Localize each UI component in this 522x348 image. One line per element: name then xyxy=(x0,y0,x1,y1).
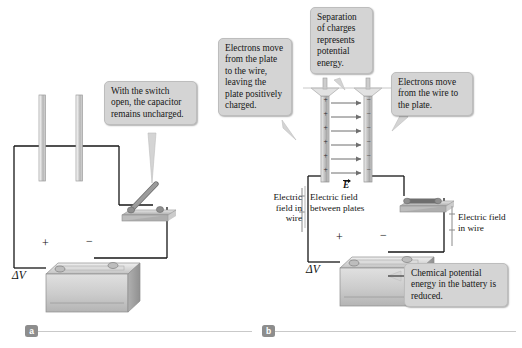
field-arrows-between-plates xyxy=(331,103,361,173)
switch-open-callout: With the switch open, the capacitor rema… xyxy=(104,81,197,125)
chemical-energy-callout: Chemical potential energy in the battery… xyxy=(404,263,508,307)
panel-label-b: b xyxy=(262,325,275,337)
delta-v-label-b: ΔV xyxy=(306,263,320,275)
panel-a-rule xyxy=(30,331,252,332)
panel-a-switch-open xyxy=(122,184,176,221)
panel-b-switch-closed xyxy=(400,198,454,212)
battery-a-plus-sign: + xyxy=(42,236,49,251)
plate-negative-charge: − xyxy=(365,165,372,174)
plate-positive-charge: + xyxy=(322,95,329,104)
electric-field-in-wire-left-label: Electric field in wire xyxy=(262,192,302,224)
tail-switch-open xyxy=(148,133,156,183)
battery-a-minus-sign: − xyxy=(86,234,93,249)
plate-negative-charge: − xyxy=(365,95,372,104)
panel-a-capacitor xyxy=(39,95,83,181)
electric-field-between-plates-label: Electric field between plates xyxy=(310,192,388,213)
figure-capacitor-charging: With the switch open, the capacitor rema… xyxy=(0,0,522,348)
wire-field-ticks-right xyxy=(449,206,455,246)
panel-b-capacitor-charged xyxy=(303,78,391,182)
battery-b-minus-sign: − xyxy=(380,228,387,243)
plate-positive-charge: + xyxy=(322,109,329,118)
plate-positive-charge: + xyxy=(322,123,329,132)
panel-a-circuit xyxy=(14,95,176,312)
separation-of-charges-callout: Separation of charges represents potenti… xyxy=(310,7,373,74)
panel-a-battery xyxy=(46,263,140,313)
plate-negative-charge: − xyxy=(365,109,372,118)
e-field-vector-label: E xyxy=(343,180,350,190)
plate-negative-charge: − xyxy=(365,151,372,160)
panel-label-a: a xyxy=(25,325,38,337)
plate-positive-charge: + xyxy=(322,137,329,146)
tail-electrons-leave xyxy=(282,120,296,140)
plate-positive-charge: + xyxy=(322,165,329,174)
plate-negative-charge: − xyxy=(365,137,372,146)
panel-a-wire xyxy=(14,146,167,268)
panel-b-wire xyxy=(308,176,444,262)
electric-field-in-wire-right-label: Electric field in wire xyxy=(458,212,510,233)
electrons-leave-plate-callout: Electrons move from the plate to the wir… xyxy=(218,38,292,116)
plate-negative-charge: − xyxy=(365,123,372,132)
plate-positive-charge: + xyxy=(322,151,329,160)
delta-v-label-a: ΔV xyxy=(12,269,26,281)
battery-b-plus-sign: + xyxy=(336,230,343,245)
electrons-to-plate-callout: Electrons move from the wire to the plat… xyxy=(391,72,473,116)
panel-b-rule xyxy=(268,331,516,332)
